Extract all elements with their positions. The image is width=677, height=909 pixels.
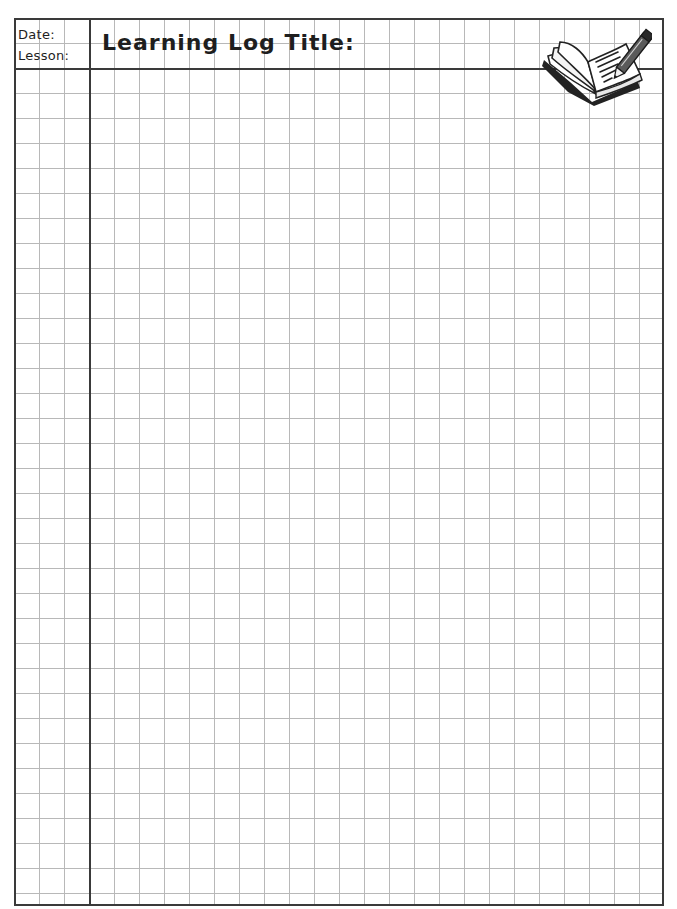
meta-labels: Date: Lesson: [18,24,90,66]
date-label: Date: [18,24,90,45]
open-book-with-pencil-icon [540,22,652,106]
graph-paper-page: Date: Lesson: Learning Log Title: [14,18,664,906]
lesson-label: Lesson: [18,45,90,66]
margin-divider [89,20,91,904]
learning-log-title: Learning Log Title: [102,28,355,58]
